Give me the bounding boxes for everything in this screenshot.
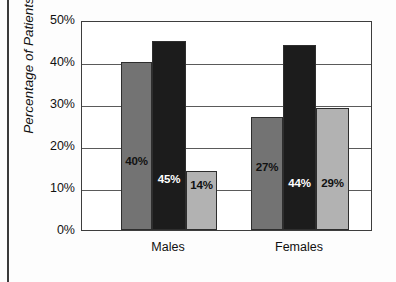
bar-females-series-1: 27% (251, 117, 283, 230)
y-tick-label-0: 0% (29, 223, 75, 237)
bar-value-label: 40% (125, 155, 147, 167)
bar-value-label: 29% (321, 177, 343, 189)
x-category-label-females: Females (249, 240, 349, 254)
chart-figure: 40%27%45%44%14%29% 50%40%30%20%10%0% Mal… (0, 0, 396, 282)
bar-group-container: 40%27%45%44%14%29% (82, 22, 371, 230)
bar-value-label: 45% (158, 173, 180, 185)
page-left-rule (7, 0, 9, 282)
plot-area: 40%27%45%44%14%29% (81, 21, 372, 231)
bar-value-label: 44% (288, 177, 310, 189)
y-tick-label-40: 40% (29, 55, 75, 69)
bar-value-label: 14% (190, 179, 212, 191)
y-tick-label-30: 30% (29, 97, 75, 111)
y-tick-label-10: 10% (29, 181, 75, 195)
bar-females-series-2: 44% (283, 45, 316, 230)
bar-females-series-3: 29% (316, 108, 349, 230)
y-tick-label-20: 20% (29, 139, 75, 153)
y-axis-title: Percentage of Patients (21, 0, 36, 146)
bar-males-series-3: 14% (186, 171, 217, 230)
bar-males-series-1: 40% (121, 62, 152, 230)
x-category-label-males: Males (118, 240, 218, 254)
y-tick-label-50: 50% (29, 13, 75, 27)
bar-value-label: 27% (256, 161, 278, 173)
bar-males-series-2: 45% (152, 41, 186, 230)
